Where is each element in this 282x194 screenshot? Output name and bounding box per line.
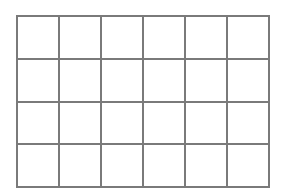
grid-cell-r4-c6 bbox=[228, 145, 270, 188]
grid-cell-r1-c3 bbox=[102, 17, 144, 60]
grid-cell-r4-c1 bbox=[18, 145, 60, 188]
grid-cell-r3-c3 bbox=[102, 103, 144, 146]
grid-cell-r4-c3 bbox=[102, 145, 144, 188]
grid-cell-r4-c5 bbox=[186, 145, 228, 188]
grid-cell-r1-c5 bbox=[186, 17, 228, 60]
grid-cell-r2-c3 bbox=[102, 60, 144, 103]
grid-cell-r2-c6 bbox=[228, 60, 270, 103]
grid-cell-r1-c2 bbox=[60, 17, 102, 60]
empty-grid bbox=[16, 15, 270, 188]
grid-cell-r1-c4 bbox=[144, 17, 186, 60]
grid-cell-r3-c5 bbox=[186, 103, 228, 146]
grid-cell-r2-c4 bbox=[144, 60, 186, 103]
grid-cell-r1-c6 bbox=[228, 17, 270, 60]
grid-cell-r3-c6 bbox=[228, 103, 270, 146]
grid-cell-r1-c1 bbox=[18, 17, 60, 60]
grid-cell-r3-c1 bbox=[18, 103, 60, 146]
grid-cell-r4-c4 bbox=[144, 145, 186, 188]
grid-cell-r2-c2 bbox=[60, 60, 102, 103]
grid-cell-r3-c2 bbox=[60, 103, 102, 146]
grid-cell-r3-c4 bbox=[144, 103, 186, 146]
grid-cell-r2-c5 bbox=[186, 60, 228, 103]
grid-cell-r4-c2 bbox=[60, 145, 102, 188]
grid-cell-r2-c1 bbox=[18, 60, 60, 103]
